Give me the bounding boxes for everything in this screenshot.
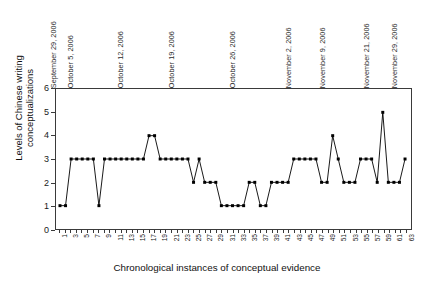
x-tick-mark bbox=[188, 230, 189, 233]
x-tick-mark bbox=[76, 230, 77, 233]
y-tick-label: 0 bbox=[44, 226, 49, 235]
x-tick-mark bbox=[305, 230, 306, 233]
series-line-chart bbox=[56, 89, 411, 229]
x-tick-mark bbox=[395, 230, 396, 233]
data-point-marker bbox=[225, 204, 228, 207]
x-tick-label: 37 bbox=[263, 234, 270, 241]
x-tick-label: 53 bbox=[353, 234, 360, 241]
x-tick-mark bbox=[260, 230, 261, 233]
data-point-marker bbox=[404, 158, 407, 161]
x-tick-mark bbox=[165, 230, 166, 233]
data-point-marker bbox=[86, 158, 89, 161]
data-point-marker bbox=[242, 204, 245, 207]
x-tick-label: 23 bbox=[185, 234, 192, 241]
date-annotation: October 26, 2006 bbox=[229, 31, 236, 88]
data-point-marker bbox=[331, 134, 334, 137]
x-tick-label: 17 bbox=[151, 234, 158, 241]
y-tick-label: 4 bbox=[44, 131, 49, 140]
data-point-marker bbox=[214, 181, 217, 184]
data-point-marker bbox=[348, 181, 351, 184]
data-point-marker bbox=[120, 158, 123, 161]
data-point-marker bbox=[125, 158, 128, 161]
x-tick-mark bbox=[104, 230, 105, 233]
x-tick-label: 35 bbox=[252, 234, 259, 241]
data-point-marker bbox=[303, 158, 306, 161]
x-tick-label: 7 bbox=[95, 234, 102, 238]
x-tick-mark bbox=[59, 230, 60, 233]
x-tick-label: 63 bbox=[409, 234, 416, 241]
x-tick-mark bbox=[216, 230, 217, 233]
data-point-marker bbox=[376, 181, 379, 184]
data-point-marker bbox=[281, 181, 284, 184]
data-point-marker bbox=[103, 158, 106, 161]
x-tick-mark bbox=[233, 230, 234, 233]
data-point-marker bbox=[298, 158, 301, 161]
x-tick-label: 3 bbox=[73, 234, 80, 238]
data-point-marker bbox=[276, 181, 279, 184]
data-point-marker bbox=[198, 158, 201, 161]
x-tick-mark bbox=[121, 230, 122, 233]
x-tick-mark bbox=[372, 230, 373, 233]
data-point-marker bbox=[142, 158, 145, 161]
x-tick-label: 21 bbox=[174, 234, 181, 241]
data-point-marker bbox=[97, 204, 100, 207]
x-tick-mark bbox=[350, 230, 351, 233]
data-point-marker bbox=[381, 111, 384, 114]
data-point-marker bbox=[387, 181, 390, 184]
x-tick-label: 51 bbox=[341, 234, 348, 241]
x-tick-mark bbox=[378, 230, 379, 233]
date-annotation: October 5, 2006 bbox=[67, 35, 74, 88]
x-tick-mark bbox=[361, 230, 362, 233]
x-tick-mark bbox=[288, 230, 289, 233]
x-tick-mark bbox=[87, 230, 88, 233]
data-point-marker bbox=[164, 158, 167, 161]
x-axis-title: Chronological instances of conceptual ev… bbox=[0, 262, 434, 273]
data-point-marker bbox=[114, 158, 117, 161]
data-point-marker bbox=[153, 134, 156, 137]
data-point-marker bbox=[131, 158, 134, 161]
data-point-marker bbox=[259, 204, 262, 207]
x-tick-mark bbox=[249, 230, 250, 233]
x-tick-label: 19 bbox=[162, 234, 169, 241]
x-tick-label: 59 bbox=[386, 234, 393, 241]
x-tick-mark bbox=[115, 230, 116, 233]
data-point-marker bbox=[209, 181, 212, 184]
x-tick-mark bbox=[193, 230, 194, 233]
x-tick-label: 31 bbox=[230, 234, 237, 241]
data-point-marker bbox=[398, 181, 401, 184]
x-tick-mark bbox=[367, 230, 368, 233]
x-tick-mark bbox=[333, 230, 334, 233]
date-annotation: October 12, 2006 bbox=[117, 31, 124, 88]
y-tick-label: 6 bbox=[44, 84, 49, 93]
data-point-marker bbox=[287, 181, 290, 184]
x-tick-label: 25 bbox=[196, 234, 203, 241]
x-tick-mark bbox=[266, 230, 267, 233]
x-tick-label: 45 bbox=[308, 234, 315, 241]
x-tick-mark bbox=[356, 230, 357, 233]
data-point-marker bbox=[365, 158, 368, 161]
x-tick-mark bbox=[199, 230, 200, 233]
x-tick-mark bbox=[389, 230, 390, 233]
chart-figure: September 29, 2006October 5, 2006October… bbox=[0, 0, 434, 287]
x-tick-mark bbox=[98, 230, 99, 233]
data-point-marker bbox=[326, 181, 329, 184]
data-point-marker bbox=[314, 158, 317, 161]
x-tick-mark bbox=[344, 230, 345, 233]
data-point-marker bbox=[70, 158, 73, 161]
date-annotation: September 29, 2006 bbox=[50, 21, 57, 88]
x-tick-mark bbox=[132, 230, 133, 233]
x-tick-mark bbox=[149, 230, 150, 233]
data-point-marker bbox=[264, 204, 267, 207]
x-tick-mark bbox=[143, 230, 144, 233]
data-point-marker bbox=[109, 158, 112, 161]
series-line bbox=[60, 112, 405, 205]
x-tick-label: 57 bbox=[375, 234, 382, 241]
x-tick-label: 9 bbox=[106, 234, 113, 238]
date-annotation: November 2, 2006 bbox=[285, 27, 292, 88]
data-point-marker bbox=[309, 158, 312, 161]
x-tick-mark bbox=[109, 230, 110, 233]
x-tick-mark bbox=[300, 230, 301, 233]
x-tick-mark bbox=[221, 230, 222, 233]
y-tick-label: 2 bbox=[44, 178, 49, 187]
data-point-marker bbox=[231, 204, 234, 207]
